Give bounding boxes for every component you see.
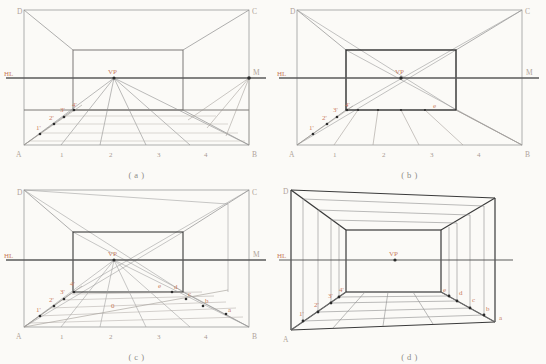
corner-label-d-b: D — [290, 7, 296, 16]
panel-caption-a: ( a ) — [0, 170, 273, 180]
measuring-mark-4-c: 4' — [70, 280, 75, 288]
measuring-mark-1-c: 1' — [36, 306, 41, 314]
floor-point-a-c: a — [228, 306, 232, 314]
measuring-mark-3-b: 3' — [333, 106, 338, 114]
corner-label-d-a: D — [17, 7, 23, 16]
baseline-div-1-b: 1 — [333, 151, 337, 159]
measuring-point-label-b: M — [526, 68, 533, 77]
corner-label-a-a: A — [16, 150, 22, 159]
baseline-div-4-b: 4 — [477, 151, 481, 159]
floor-point-d-c: d — [174, 283, 178, 291]
baseline-div-1-c: 1 — [60, 333, 64, 341]
point-markers-a — [39, 76, 251, 135]
floor-point-c-d: c — [472, 296, 475, 304]
corner-label-a-b: A — [289, 150, 295, 159]
panel-b: D C A B HL M VP 1 2 3 4 1' 2' 3' 4' e ( … — [273, 0, 546, 182]
baseline-div-1-a: 1 — [60, 151, 64, 159]
floor-point-e-c: e — [158, 282, 161, 290]
horizon-label-b: HL — [277, 70, 286, 78]
measuring-mark-4-d: 4' — [339, 286, 344, 294]
floor-point-b-c: b — [205, 297, 209, 305]
measuring-mark-3-d: 3' — [328, 292, 333, 300]
baseline-div-3-a: 3 — [157, 151, 161, 159]
floor-point-d-d: d — [459, 289, 463, 297]
panel-c: D C A B HL M VP 1 2 3 4 1' 2' 3' 4' a b … — [0, 182, 273, 364]
panel-a: D C A B HL M VP 1 2 3 4 1' 2' 3' 4' ( a … — [0, 0, 273, 182]
baseline-div-4-c: 4 — [204, 333, 208, 341]
corner-label-a-d: A — [283, 335, 289, 344]
horizon-label-d: HL — [277, 252, 286, 260]
baseline-div-2-c: 2 — [109, 333, 113, 341]
corner-label-d-c: D — [17, 188, 23, 197]
baseline-div-3-b: 3 — [430, 151, 434, 159]
panel-a-drawing: D C A B HL M VP 1 2 3 4 1' 2' 3' 4' — [0, 0, 273, 182]
floor-point-a-d: a — [499, 314, 503, 322]
corner-label-c-b: C — [525, 7, 530, 16]
corner-label-c-c: C — [252, 188, 257, 197]
baseline-div-2-b: 2 — [382, 151, 386, 159]
baseline-div-3-c: 3 — [157, 333, 161, 341]
measuring-mark-1-d: 1' — [299, 310, 304, 318]
panel-caption-c: ( c ) — [0, 352, 273, 362]
origin-label-c: 0 — [111, 302, 115, 310]
panel-d-drawing: D A HL VP 1' 2' 3' 4' a b c d e — [273, 182, 546, 364]
measuring-mark-3-c: 3' — [60, 288, 65, 296]
measuring-mark-2-d: 2' — [314, 301, 319, 309]
measuring-mark-1-a: 1' — [36, 124, 41, 132]
corner-label-b-b: B — [525, 150, 530, 159]
floor-point-c-c: c — [188, 290, 191, 298]
corner-label-b-c: B — [252, 332, 257, 341]
horizon-label-c: HL — [4, 252, 13, 260]
measuring-mark-2-c: 2' — [49, 296, 54, 304]
vanishing-point-label-d: VP — [389, 250, 398, 258]
panel-caption-d: ( d ) — [273, 352, 546, 362]
panel-b-drawing: D C A B HL M VP 1 2 3 4 1' 2' 3' 4' e — [273, 0, 546, 182]
vanishing-point-label-c: VP — [108, 250, 117, 258]
corner-label-a-c: A — [16, 332, 22, 341]
panel-c-drawing: D C A B HL M VP 1 2 3 4 1' 2' 3' 4' a b … — [0, 182, 273, 364]
corner-label-b-a: B — [252, 150, 257, 159]
figure-canvas: D C A B HL M VP 1 2 3 4 1' 2' 3' 4' ( a … — [0, 0, 546, 364]
panel-caption-b: ( b ) — [273, 170, 546, 180]
corner-label-c-a: C — [252, 7, 257, 16]
corner-label-d-d: D — [283, 187, 289, 196]
horizon-label-a: HL — [4, 70, 13, 78]
measuring-mark-2-b: 2' — [322, 114, 327, 122]
measuring-mark-4-b: 4' — [345, 101, 350, 109]
measuring-mark-1-b: 1' — [309, 124, 314, 132]
floor-point-e-b: e — [433, 102, 436, 110]
measuring-mark-2-a: 2' — [49, 114, 54, 122]
vanishing-point-label-a: VP — [108, 68, 117, 76]
baseline-div-2-a: 2 — [109, 151, 113, 159]
measuring-point-label-a: M — [253, 68, 260, 77]
floor-point-e-d: e — [443, 286, 446, 294]
panel-d: D A HL VP 1' 2' 3' 4' a b c d e ( d ) — [273, 182, 546, 364]
vanishing-point-label-b: VP — [395, 68, 404, 76]
measuring-point-label-c: M — [253, 250, 260, 259]
baseline-div-4-a: 4 — [204, 151, 208, 159]
measuring-mark-4-a: 4' — [72, 101, 77, 109]
measuring-mark-3-a: 3' — [60, 106, 65, 114]
floor-point-b-d: b — [486, 305, 490, 313]
